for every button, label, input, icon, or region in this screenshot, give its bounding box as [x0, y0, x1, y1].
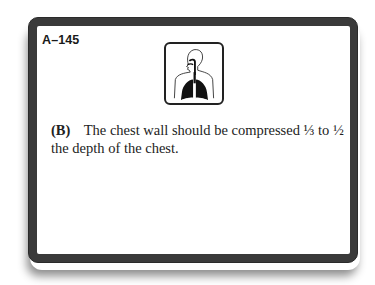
respiratory-system-icon: [164, 42, 224, 105]
flashcard: A–145: [28, 17, 358, 263]
answer-choice: (B): [51, 122, 70, 138]
answer-text: (B) The chest wall should be compressed …: [51, 121, 346, 157]
flashcard-stage: A–145: [0, 0, 375, 285]
answer-explanation: The chest wall should be compressed ⅓ to…: [51, 122, 344, 156]
card-id-label: A–145: [42, 33, 79, 47]
card-face: A–145: [37, 26, 350, 254]
